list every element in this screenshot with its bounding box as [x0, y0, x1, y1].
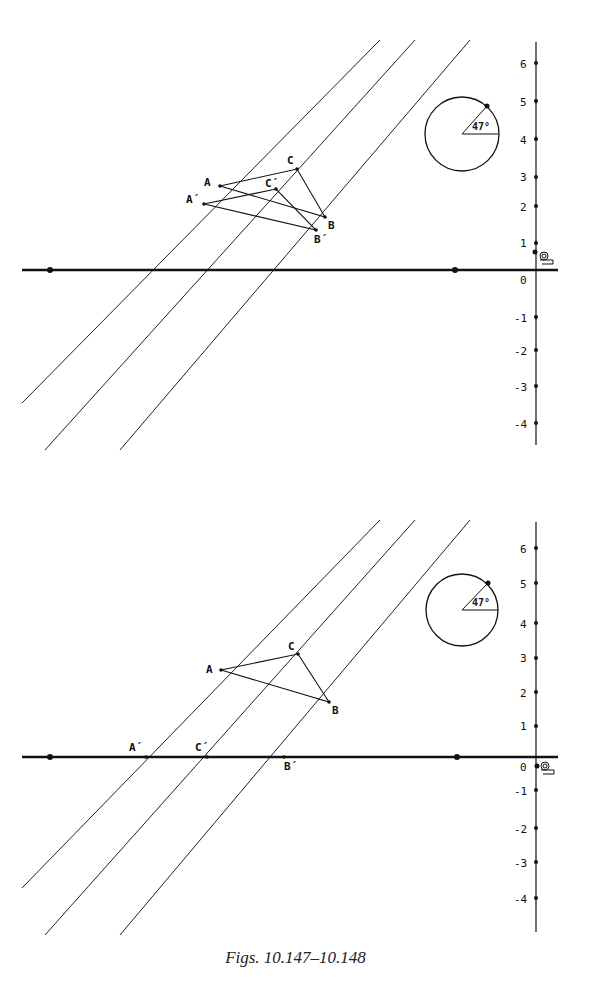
- point-b-label: B: [332, 704, 339, 717]
- line-point-right[interactable]: [452, 267, 458, 273]
- parallel-lines: [22, 40, 470, 450]
- y-tick-1: 1: [520, 237, 527, 250]
- geometry-canvas-2: 6 5 4 3 2 1 0 -1 -2 -3 -4 47°: [0, 490, 591, 940]
- figure-10-148: 6 5 4 3 2 1 0 -1 -2 -3 -4 47°: [0, 490, 591, 940]
- line-point-left[interactable]: [47, 754, 53, 760]
- angle-label: 47°: [472, 597, 490, 608]
- slider-point[interactable]: [533, 250, 538, 255]
- y-tick-neg2: -2: [514, 345, 527, 358]
- angle-handle[interactable]: [485, 104, 490, 109]
- y-tick-2: 2: [520, 687, 527, 700]
- parallel-line-through-b: [120, 40, 470, 450]
- y-tick-5: 5: [520, 96, 527, 109]
- hand-pointer-icon[interactable]: [540, 252, 553, 264]
- point-b-prime-label: B´: [314, 233, 327, 246]
- y-tick-neg3: -3: [514, 381, 527, 394]
- y-tick-neg2: -2: [514, 823, 527, 836]
- triangle-abc: [221, 654, 329, 702]
- y-tick-0: 0: [520, 761, 527, 774]
- slider-point[interactable]: [535, 764, 540, 769]
- y-tick-4: 4: [520, 134, 527, 147]
- y-tick-6: 6: [520, 58, 527, 71]
- geometry-canvas-1: 6 5 4 3 2 1 0 -1 -2 -3 -4 47°: [0, 0, 591, 460]
- point-c-prime-label: C´: [195, 741, 208, 754]
- angle-handle[interactable]: [486, 581, 491, 586]
- point-a-label: A: [204, 176, 211, 189]
- parallel-line-through-c: [45, 520, 415, 935]
- line-point-left[interactable]: [47, 267, 53, 273]
- point-a-label: A: [206, 663, 213, 676]
- y-tick-neg3: -3: [514, 857, 527, 870]
- parallel-line-through-b: [120, 520, 470, 935]
- angle-label: 47°: [472, 121, 490, 132]
- y-tick-neg4: -4: [514, 893, 528, 906]
- parallel-line-through-c: [45, 40, 415, 450]
- point-b-prime-label: B´: [284, 760, 297, 773]
- parallel-lines: [22, 520, 470, 935]
- angle-dial[interactable]: 47°: [425, 97, 499, 171]
- y-tick-neg1: -1: [514, 312, 527, 325]
- y-tick-2: 2: [520, 201, 527, 214]
- y-tick-1: 1: [520, 720, 527, 733]
- y-tick-0: 0: [520, 274, 527, 287]
- y-axis: 6 5 4 3 2 1 0 -1 -2 -3 -4: [514, 42, 538, 445]
- point-a-prime-label: A´: [129, 741, 142, 754]
- figure-10-147: 6 5 4 3 2 1 0 -1 -2 -3 -4 47°: [0, 0, 591, 460]
- y-tick-5: 5: [520, 578, 527, 591]
- point-b-label: B: [328, 219, 335, 232]
- hand-pointer-icon[interactable]: [541, 762, 554, 774]
- y-tick-neg4: -4: [514, 418, 528, 431]
- y-tick-3: 3: [520, 652, 527, 665]
- point-c-prime-label: C´: [265, 177, 278, 190]
- y-tick-3: 3: [520, 171, 527, 184]
- y-tick-4: 4: [520, 618, 527, 631]
- figure-caption: Figs. 10.147–10.148: [0, 948, 591, 968]
- angle-dial[interactable]: 47°: [426, 574, 498, 646]
- point-a-prime-label: A´: [186, 193, 199, 206]
- y-axis: 6 5 4 3 2 1 0 -1 -2 -3 -4: [514, 522, 540, 932]
- point-c-label: C: [288, 640, 295, 653]
- y-tick-6: 6: [520, 543, 527, 556]
- y-tick-neg1: -1: [514, 785, 527, 798]
- line-point-right[interactable]: [454, 754, 460, 760]
- point-c-label: C: [287, 154, 294, 167]
- parallel-line-through-a: [22, 40, 380, 403]
- parallel-line-through-a: [22, 520, 380, 888]
